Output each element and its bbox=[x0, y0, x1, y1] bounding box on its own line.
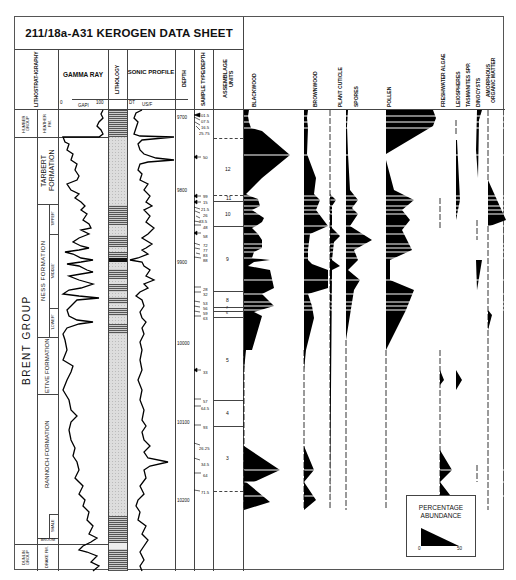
depth-tick: 9900 bbox=[177, 260, 187, 265]
unit-label: 10 bbox=[225, 211, 231, 217]
gamma-scale-min: 0 bbox=[60, 100, 63, 105]
header-spores: SPORES bbox=[353, 53, 361, 107]
unit-label: 3 bbox=[226, 455, 229, 461]
strat-ness-formation: NESS FORMATION bbox=[37, 204, 49, 337]
header-leiospheres: LEIOSPHERES bbox=[455, 53, 463, 107]
dinocysts-mid bbox=[476, 260, 482, 290]
unit-boundary bbox=[214, 201, 243, 202]
strat-ness-upper: 'UPPER' bbox=[49, 204, 58, 234]
legend-triangle-icon bbox=[419, 528, 463, 548]
unit-boundary bbox=[214, 400, 243, 401]
gamma-scale-max: 100 bbox=[96, 100, 104, 105]
strat-rannoch-formation: RANNOCH FORMATION bbox=[37, 394, 58, 514]
strat-ness-lower: 'LOWER' bbox=[49, 308, 58, 337]
unit-label: 9 bbox=[226, 256, 229, 262]
legend-title-line2: ABUNDANCE bbox=[407, 512, 475, 520]
legend-max: 50 bbox=[457, 546, 462, 551]
unit-label: 5 bbox=[226, 357, 229, 363]
header-sonic-profile: SONIC PROFILE bbox=[127, 69, 175, 76]
header-pollen: POLLEN bbox=[386, 53, 394, 107]
header-sample-type-depth: SAMPLE TYPE/DEPTH bbox=[194, 51, 213, 107]
depth-tick: 9800 bbox=[177, 188, 187, 193]
strat-tarbert-formation: TARBERT FORMATION bbox=[37, 137, 58, 204]
amorphous-mid bbox=[488, 310, 492, 330]
unit-label: 8 bbox=[226, 297, 229, 303]
header-assemblage-units: ASSEMBLAGE UNITS bbox=[213, 51, 243, 107]
strat-humber-group: HUMBER GROUP bbox=[15, 111, 37, 137]
divider bbox=[15, 49, 243, 50]
strat-drake-fm: DRAKE FM. bbox=[37, 544, 58, 571]
plant-cuticle-profile bbox=[330, 194, 340, 510]
sonic-profile-log bbox=[128, 110, 175, 571]
unit-label: 6 bbox=[226, 311, 228, 315]
strat-ness-middle: 'MIDDLE' bbox=[49, 234, 58, 308]
percentage-abundance-legend: PERCENTAGE ABUNDANCE 0 50 bbox=[406, 495, 476, 557]
header-blackwood: BLACKWOOD bbox=[251, 53, 259, 107]
header-tasmanites: TASMANITES SPP. bbox=[465, 47, 473, 107]
unit-label: 4 bbox=[226, 410, 229, 416]
header-freshwater-algae: FRESHWATER ALGAE bbox=[440, 37, 448, 107]
legend-title-line1: PERCENTAGE bbox=[407, 504, 475, 512]
unit-label: 12 bbox=[225, 166, 231, 172]
depth-tick: 10200 bbox=[177, 498, 190, 503]
strat-brent-group: BRENT GROUP bbox=[15, 137, 37, 544]
unit-boundary bbox=[214, 317, 243, 318]
dinocysts-profile bbox=[476, 110, 482, 178]
depth-tick: 10000 bbox=[177, 341, 190, 346]
leiospheres-profile bbox=[456, 140, 462, 430]
sonic-scale-left: DT bbox=[129, 100, 135, 105]
divider bbox=[175, 49, 176, 571]
unit-boundary bbox=[214, 291, 243, 292]
unit-label: 11 bbox=[226, 195, 231, 201]
header-lithology: LITHOLOGY bbox=[108, 51, 127, 107]
legend-min: 0 bbox=[418, 546, 421, 551]
unit-boundary-dashed bbox=[214, 138, 243, 139]
gamma-scale-unit: GAPI bbox=[78, 103, 89, 108]
sheet-title: 211/18a-A31 KEROGEN DATA SHEET bbox=[15, 17, 243, 49]
strat-heather-fm: HEATHER FM. bbox=[37, 111, 58, 137]
unit-boundary bbox=[214, 226, 243, 227]
header-plant-cuticle: PLANT CUTICLE bbox=[337, 53, 345, 107]
unit-boundary bbox=[214, 307, 243, 308]
strat-broom: BROOM bbox=[38, 538, 58, 542]
blackwood-profile-lower bbox=[244, 446, 280, 510]
unit-label: 7 bbox=[226, 306, 228, 310]
header-dinocysts: DINOCYSTS bbox=[475, 53, 483, 107]
header-lithostratigraphy: LITHOSTRAT-IGRAPHY bbox=[15, 51, 58, 107]
header-amorphous-organic-matter: AMORPHOUS ORGANIC MATTER bbox=[484, 53, 498, 107]
depth-tick: 9700 bbox=[177, 115, 187, 120]
gamma-ray-log bbox=[59, 110, 108, 571]
amorphous-profile bbox=[488, 180, 506, 226]
legend-title: PERCENTAGE ABUNDANCE bbox=[407, 504, 475, 520]
header-gamma-ray: GAMMA RAY bbox=[58, 71, 108, 79]
brownwood-profile-lower bbox=[304, 446, 316, 510]
sonic-scale-unit: US/F bbox=[142, 102, 152, 107]
unit-boundary bbox=[214, 426, 243, 427]
strat-dunlin-group: DUNLIN GROUP bbox=[15, 544, 37, 571]
divider bbox=[213, 49, 214, 571]
unit-boundary-dashed bbox=[214, 491, 243, 492]
lithology-column bbox=[109, 110, 127, 571]
kerogen-abundance-plot bbox=[244, 110, 505, 510]
strat-etive-formation: ETIVE FORMATION bbox=[37, 337, 58, 394]
header-brownwood: BROWNWOOD bbox=[312, 53, 320, 107]
header-depth: DEPTH bbox=[175, 51, 194, 107]
unit-boundary bbox=[214, 311, 243, 312]
kerogen-data-sheet: 211/18a-A31 KEROGEN DATA SHEET LITHOSTRA… bbox=[14, 16, 504, 570]
strat-rannoch-shale: SHALE bbox=[49, 514, 58, 538]
depth-tick: 10100 bbox=[177, 420, 190, 425]
sample-arrows bbox=[194, 109, 204, 571]
